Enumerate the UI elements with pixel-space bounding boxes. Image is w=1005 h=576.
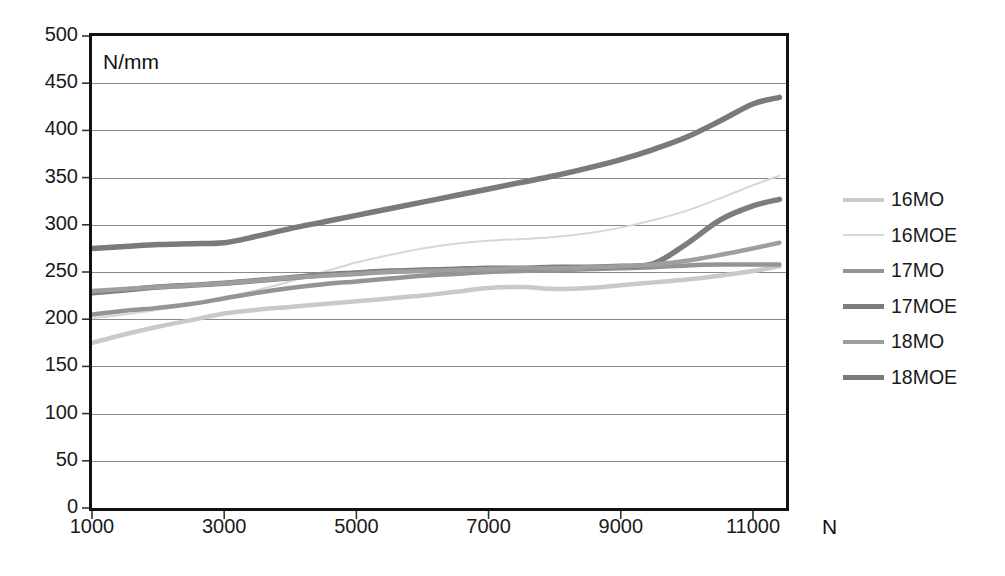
y-tick-label-450: 450 bbox=[22, 70, 78, 93]
y-tick-label-200: 200 bbox=[22, 306, 78, 329]
x-axis-title: N bbox=[822, 515, 837, 539]
plot-area bbox=[89, 33, 789, 511]
legend-swatch-18moe-icon bbox=[843, 375, 884, 380]
legend-label: 18MO bbox=[891, 330, 944, 353]
legend-swatch-18mo-icon bbox=[843, 340, 884, 344]
x-tick-label-5000: 5000 bbox=[311, 515, 401, 538]
legend-label: 17MO bbox=[891, 259, 944, 282]
y-unit-annotation: N/mm bbox=[103, 50, 159, 74]
x-tick-label-11000: 11000 bbox=[708, 515, 798, 538]
y-tick-label-400: 400 bbox=[22, 117, 78, 140]
legend-item-18mo[interactable]: 18MO bbox=[843, 324, 1003, 360]
y-tick-label-250: 250 bbox=[22, 259, 78, 282]
y-tick-label-500: 500 bbox=[22, 23, 78, 46]
legend-item-17mo[interactable]: 17MO bbox=[843, 253, 1003, 289]
legend-swatch-16moe-icon bbox=[843, 234, 884, 236]
legend-item-16moe[interactable]: 16MOE bbox=[843, 218, 1003, 254]
chart-figure: N/mm N 050100150200250300350400450500 10… bbox=[0, 0, 1005, 576]
legend-label: 18MOE bbox=[891, 366, 957, 389]
legend-item-16mo[interactable]: 16MO bbox=[843, 182, 1003, 218]
x-tick-label-3000: 3000 bbox=[179, 515, 269, 538]
legend-swatch-16mo-icon bbox=[843, 198, 884, 202]
x-tick-label-1000: 1000 bbox=[47, 515, 137, 538]
legend-swatch-17mo-icon bbox=[843, 269, 884, 273]
y-tick-label-100: 100 bbox=[22, 401, 78, 424]
legend-item-17moe[interactable]: 17MOE bbox=[843, 289, 1003, 325]
series-line-18moe bbox=[92, 97, 779, 248]
y-tick-label-50: 50 bbox=[22, 448, 78, 471]
legend-label: 16MO bbox=[891, 188, 944, 211]
series-layer bbox=[92, 36, 786, 508]
y-tick-label-150: 150 bbox=[22, 353, 78, 376]
legend-label: 17MOE bbox=[891, 295, 957, 318]
chart-legend: 16MO16MOE17MO17MOE18MO18MOE bbox=[843, 182, 1003, 395]
x-tick-label-9000: 9000 bbox=[576, 515, 666, 538]
x-tick-label-7000: 7000 bbox=[444, 515, 534, 538]
legend-label: 16MOE bbox=[891, 224, 957, 247]
y-tick-label-300: 300 bbox=[22, 212, 78, 235]
legend-swatch-17moe-icon bbox=[843, 304, 884, 309]
y-tick-label-350: 350 bbox=[22, 165, 78, 188]
legend-item-18moe[interactable]: 18MOE bbox=[843, 360, 1003, 396]
